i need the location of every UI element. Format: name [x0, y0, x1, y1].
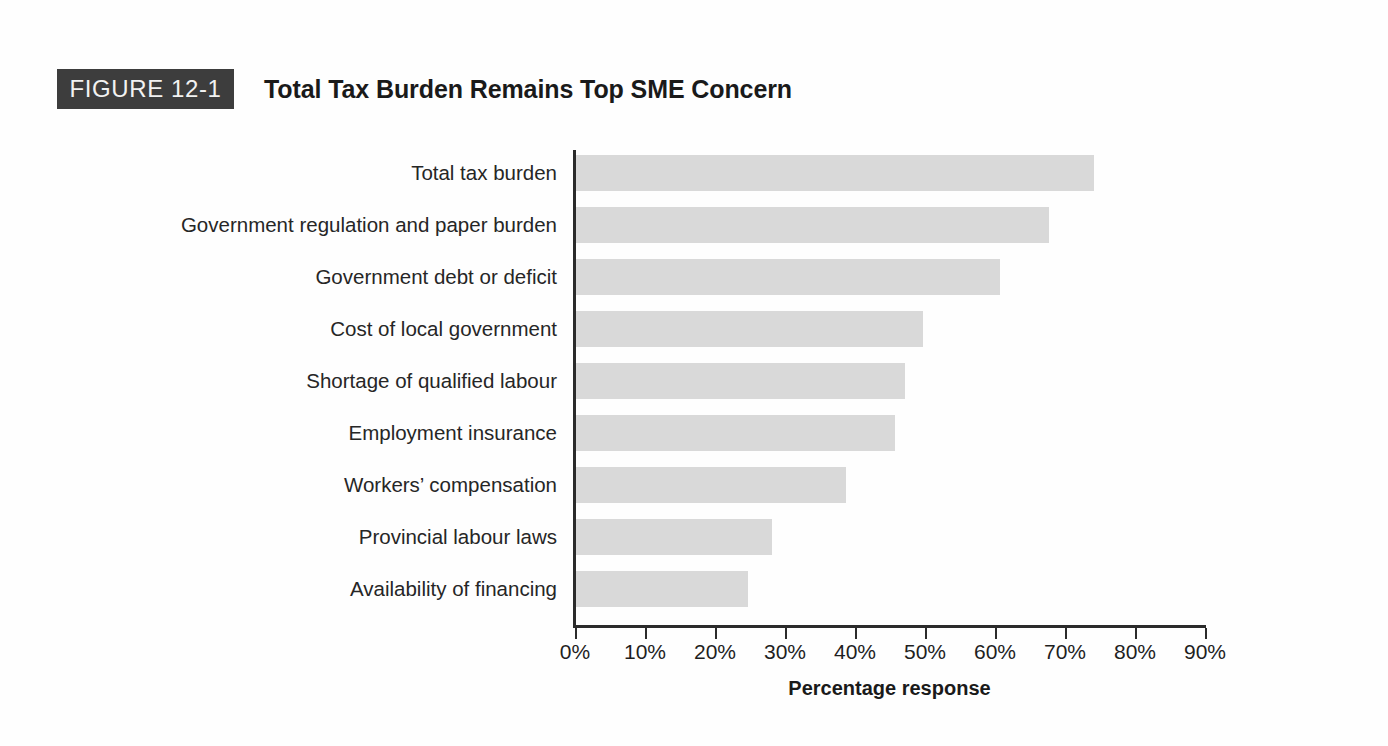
- bar-category-label: Employment insurance: [0, 415, 557, 451]
- bar: [576, 415, 895, 451]
- bar-row: Availability of financing: [0, 571, 1388, 607]
- bar-row: Workers’ compensation: [0, 467, 1388, 503]
- bar-category-label: Government regulation and paper burden: [0, 207, 557, 243]
- bar-row: Total tax burden: [0, 155, 1388, 191]
- x-axis-tick-label: 20%: [675, 640, 755, 664]
- x-axis-tick: [1065, 628, 1067, 639]
- figure-page: FIGURE 12-1 Total Tax Burden Remains Top…: [0, 0, 1388, 746]
- x-axis-tick: [855, 628, 857, 639]
- x-axis-title: Percentage response: [573, 677, 1206, 700]
- bar-category-label: Government debt or deficit: [0, 259, 557, 295]
- bar-category-label: Cost of local government: [0, 311, 557, 347]
- x-axis-tick: [645, 628, 647, 639]
- x-axis-tick: [925, 628, 927, 639]
- bar-category-label: Workers’ compensation: [0, 467, 557, 503]
- x-axis-tick: [785, 628, 787, 639]
- x-axis-tick: [1135, 628, 1137, 639]
- bar: [576, 571, 748, 607]
- x-axis-tick-label: 50%: [885, 640, 965, 664]
- bar-category-label: Availability of financing: [0, 571, 557, 607]
- bar-category-label: Provincial labour laws: [0, 519, 557, 555]
- x-axis-tick-label: 80%: [1095, 640, 1175, 664]
- x-axis-tick-label: 30%: [745, 640, 825, 664]
- figure-header: FIGURE 12-1 Total Tax Burden Remains Top…: [57, 68, 792, 110]
- bar: [576, 155, 1094, 191]
- bar-category-label: Total tax burden: [0, 155, 557, 191]
- x-axis-tick-label: 70%: [1025, 640, 1105, 664]
- figure-number-badge: FIGURE 12-1: [57, 69, 234, 109]
- bar-row: Employment insurance: [0, 415, 1388, 451]
- x-axis-tick: [715, 628, 717, 639]
- bar: [576, 311, 923, 347]
- x-axis-tick: [1205, 628, 1207, 639]
- bar-row: Government regulation and paper burden: [0, 207, 1388, 243]
- x-axis-tick: [995, 628, 997, 639]
- bar: [576, 467, 846, 503]
- bar: [576, 207, 1049, 243]
- x-axis-tick-label: 10%: [605, 640, 685, 664]
- bar-row: Government debt or deficit: [0, 259, 1388, 295]
- x-axis-line: [573, 625, 1206, 628]
- figure-title: Total Tax Burden Remains Top SME Concern: [264, 75, 792, 104]
- x-axis-tick-label: 90%: [1165, 640, 1245, 664]
- bar-chart: Total tax burdenGovernment regulation an…: [0, 140, 1388, 710]
- x-axis-tick-label: 0%: [535, 640, 615, 664]
- x-axis-tick-label: 40%: [815, 640, 895, 664]
- bar-row: Cost of local government: [0, 311, 1388, 347]
- bar: [576, 259, 1000, 295]
- bar-row: Provincial labour laws: [0, 519, 1388, 555]
- bar: [576, 363, 905, 399]
- bar: [576, 519, 772, 555]
- x-axis-tick-label: 60%: [955, 640, 1035, 664]
- bar-category-label: Shortage of qualified labour: [0, 363, 557, 399]
- bar-row: Shortage of qualified labour: [0, 363, 1388, 399]
- x-axis-tick: [575, 628, 577, 639]
